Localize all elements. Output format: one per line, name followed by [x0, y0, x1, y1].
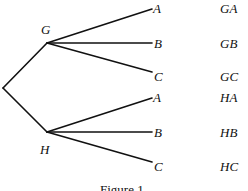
node-label-g: G: [41, 23, 50, 36]
figure-caption: Figure 1: [100, 183, 144, 191]
branch-root-g: [3, 43, 47, 88]
tree-branches: [0, 0, 248, 191]
branch-g-a: [47, 9, 152, 43]
outcome-gb: GB: [220, 37, 237, 50]
outcome-hc: HC: [220, 160, 238, 173]
outcome-ha: HA: [220, 91, 237, 104]
node-label-h: H: [40, 143, 49, 156]
outcome-hb: HB: [220, 126, 237, 139]
branch-g-c: [47, 43, 152, 72]
branch-h-c: [47, 132, 152, 162]
outcome-ga: GA: [220, 2, 237, 15]
tree-diagram: G H A B C A B C GA GB GC HA HB HC Figure…: [0, 0, 248, 191]
leaf-label-gb: B: [154, 37, 162, 50]
branch-h-a: [47, 98, 152, 132]
leaf-label-ga: A: [153, 2, 161, 15]
leaf-label-gc: C: [154, 70, 163, 83]
branch-root-h: [3, 88, 47, 132]
outcome-gc: GC: [220, 70, 238, 83]
leaf-label-ha: A: [153, 91, 161, 104]
leaf-label-hb: B: [154, 126, 162, 139]
leaf-label-hc: C: [154, 160, 163, 173]
